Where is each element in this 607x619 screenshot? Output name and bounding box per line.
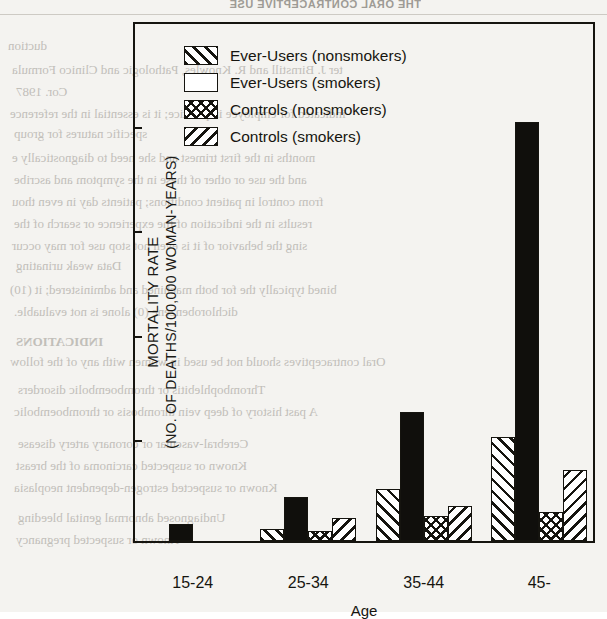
y-axis-tick-mark <box>135 440 142 442</box>
x-axis-tick-label: 35-44 <box>403 574 444 592</box>
y-axis-title-line2: (NO. OF DEATHS/100,000 WOMAN-YEARS) <box>163 42 181 562</box>
x-axis-tick-label: 25-34 <box>288 574 329 592</box>
y-axis-tick-mark <box>135 336 142 338</box>
bar-25-34-crosshatch <box>308 531 332 541</box>
ghost-header-rule <box>0 14 607 15</box>
y-axis-title-line1: MORTALITY RATE <box>144 236 161 367</box>
bar-35-44-backward-diagonal-hatch <box>448 506 472 541</box>
ghost-text-line: duction <box>8 38 47 54</box>
y-axis-tick-mark <box>135 127 142 129</box>
legend-label: Controls (smokers) <box>230 128 361 146</box>
legend-label: Controls (nonsmokers) <box>230 101 387 119</box>
chart-plot-area: MORTALITY RATE (NO. OF DEATHS/100,000 WO… <box>133 22 595 543</box>
ghost-page-header: THE ORAL CONTRACEPTIVE USE <box>150 0 500 10</box>
legend-swatch-solid-black <box>184 73 218 92</box>
bar-45--forward-diagonal-hatch <box>491 437 515 541</box>
ghost-text-line: Data weak urinating <box>16 258 121 274</box>
legend-swatch-crosshatch <box>184 100 218 119</box>
bar-15-24-solid-black <box>169 524 193 541</box>
bar-25-34-forward-diagonal-hatch <box>260 529 284 542</box>
bar-45--backward-diagonal-hatch <box>563 470 587 541</box>
bar-45--solid-black <box>515 122 539 541</box>
ghost-text-line: Cor. 1987 <box>16 84 67 100</box>
legend-item: Controls (nonsmokers) <box>184 97 474 122</box>
ghost-text-line: INDICATIONS <box>16 334 103 350</box>
x-axis-tick-label: 15-24 <box>172 574 213 592</box>
y-axis-title: MORTALITY RATE (NO. OF DEATHS/100,000 WO… <box>144 42 180 562</box>
x-axis-tick-label: 45- <box>528 574 551 592</box>
legend-item: Ever-Users (smokers) <box>184 70 474 95</box>
legend-item: Controls (smokers) <box>184 124 474 149</box>
chart-legend: Ever-Users (nonsmokers)Ever-Users (smoke… <box>184 43 474 151</box>
x-axis-title: Age <box>135 602 593 619</box>
legend-swatch-backward-diagonal-hatch <box>184 127 218 146</box>
legend-label: Ever-Users (smokers) <box>230 74 381 92</box>
bar-35-44-solid-black <box>400 412 424 541</box>
bar-35-44-crosshatch <box>424 516 448 541</box>
bar-45--crosshatch <box>539 512 563 541</box>
y-axis-tick-mark <box>135 231 142 233</box>
legend-item: Ever-Users (nonsmokers) <box>184 43 474 68</box>
bar-35-44-forward-diagonal-hatch <box>376 489 400 541</box>
ghost-text-line: specific natures for group <box>14 126 147 142</box>
bar-25-34-backward-diagonal-hatch <box>332 518 356 541</box>
legend-swatch-forward-diagonal-hatch <box>184 46 218 65</box>
legend-label: Ever-Users (nonsmokers) <box>230 47 407 65</box>
bar-25-34-solid-black <box>284 497 308 541</box>
